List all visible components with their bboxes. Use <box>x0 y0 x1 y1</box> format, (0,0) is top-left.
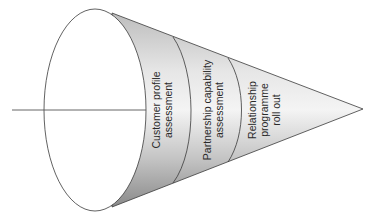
cone-svg: Customer profile assessment Partnership … <box>0 0 371 220</box>
cone-diagram: Customer profile assessment Partnership … <box>0 0 371 220</box>
stage-3-line-2: programme <box>258 83 270 137</box>
stage-1-label: Customer profile assessment <box>150 71 174 148</box>
stage-1-line-2: assessment <box>162 82 174 138</box>
stage-3-line-3: roll out <box>270 94 282 126</box>
stage-2-line-2: assessment <box>213 82 225 138</box>
stage-2-line-1: Partnership capability <box>201 59 213 160</box>
stage-1-line-1: Customer profile <box>150 71 162 148</box>
stage-3-line-1: Relationship <box>246 81 258 139</box>
